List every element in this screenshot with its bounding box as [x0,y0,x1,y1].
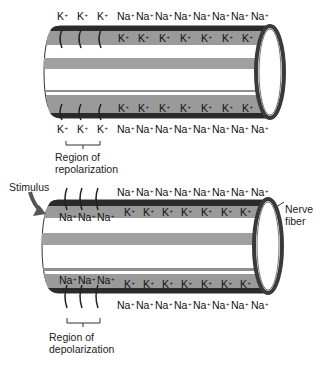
ion-k: K+ [143,279,154,290]
depolarization-label-line2: depolarization [49,343,114,355]
ion-na: Na+ [59,275,76,286]
ion-k: K+ [118,103,129,114]
ion-k: K+ [77,11,88,22]
ion-na: Na+ [193,187,210,198]
repolarization-label-line2: repolarization [55,163,118,175]
ion-k: K+ [201,279,212,290]
ion-k: K+ [222,103,233,114]
nerve-fiber-label-line1: Nerve [285,203,313,215]
ion-na: Na+ [212,187,229,198]
ion-k: K+ [242,103,253,114]
ion-na: Na+ [193,124,210,135]
ion-na: Na+ [117,124,134,135]
ion-k: K+ [162,279,173,290]
ion-na: Na+ [136,187,153,198]
ion-k: K+ [240,207,251,218]
ion-na: Na+ [251,124,268,135]
ion-na: Na+ [117,187,134,198]
ion-k: K+ [159,103,170,114]
nerve-fiber-label-line2: fiber [285,215,313,227]
ion-na: Na+ [251,11,268,22]
ion-na: Na+ [59,212,76,223]
ion-na: Na+ [97,212,114,223]
ion-na: Na+ [117,11,134,22]
ion-na: Na+ [136,300,153,311]
ion-k: K+ [201,207,212,218]
ion-na: Na+ [78,275,95,286]
ion-na: Na+ [251,300,268,311]
ion-k: K+ [143,207,154,218]
ion-na: Na+ [231,11,248,22]
stimulus-label: Stimulus [9,181,49,193]
ion-na: Na+ [174,187,191,198]
ion-k: K+ [201,33,212,44]
ion-na: Na+ [193,11,210,22]
ion-na: Na+ [78,212,95,223]
ion-k: K+ [180,103,191,114]
depolarization-label-line1: Region of [49,331,114,343]
ion-na: Na+ [174,11,191,22]
ion-na: Na+ [212,300,229,311]
repolarization-label: Region of repolarization [55,151,118,175]
ion-k: K+ [57,11,68,22]
ion-k: K+ [240,279,251,290]
ion-na: Na+ [212,124,229,135]
ion-k: K+ [162,207,173,218]
ion-na: Na+ [136,11,153,22]
ion-k: K+ [124,207,135,218]
depolarization-label: Region of depolarization [49,331,114,355]
ion-na: Na+ [212,11,229,22]
ion-k: K+ [181,207,192,218]
ion-na: Na+ [193,300,210,311]
ion-k: K+ [138,103,149,114]
ion-k: K+ [124,279,135,290]
ion-na: Na+ [155,11,172,22]
ion-k: K+ [118,33,129,44]
ion-k: K+ [180,33,191,44]
ion-k: K+ [242,33,253,44]
ion-na: Na+ [231,124,248,135]
ion-na: Na+ [136,124,153,135]
ion-k: K+ [138,33,149,44]
ion-k: K+ [201,103,212,114]
ion-k: K+ [57,124,68,135]
ion-k: K+ [221,207,232,218]
ion-na: Na+ [231,300,248,311]
ion-k: K+ [77,124,88,135]
ion-na: Na+ [155,124,172,135]
ion-k: K+ [97,124,108,135]
ion-na: Na+ [251,187,268,198]
ion-k: K+ [159,33,170,44]
ion-k: K+ [97,11,108,22]
nerve-fiber-label: Nerve fiber [285,203,313,227]
ion-k: K+ [181,279,192,290]
ion-k: K+ [222,33,233,44]
ion-na: Na+ [155,300,172,311]
ion-na: Na+ [231,187,248,198]
ion-na: Na+ [117,300,134,311]
ion-k: K+ [221,279,232,290]
ion-na: Na+ [155,187,172,198]
ion-na: Na+ [174,300,191,311]
repolarization-label-line1: Region of [55,151,118,163]
ion-na: Na+ [174,124,191,135]
ion-na: Na+ [97,275,114,286]
